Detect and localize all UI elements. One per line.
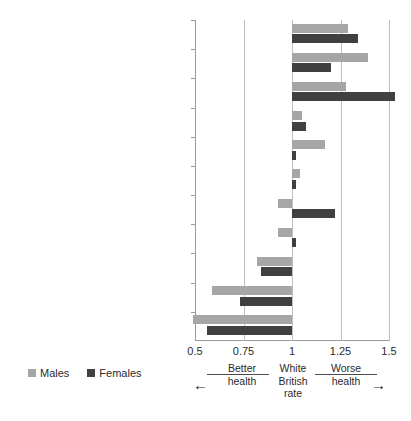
bar-females-pakistani <box>292 92 395 101</box>
arrow-left-icon: ← <box>193 379 208 390</box>
bar-group <box>195 312 389 341</box>
bar-females-mixed-white-black-african <box>292 180 296 189</box>
bar-females-bangladeshi <box>292 34 358 43</box>
bar-males-black-caribbean <box>292 140 325 149</box>
bar-males-indian <box>278 199 292 208</box>
annotation-worse-health: Worse health <box>317 362 375 387</box>
bar-males-white-irish <box>292 53 368 62</box>
annotation-reference-line3: rate <box>271 387 315 400</box>
bar-females-mixed-white-black-caribbean <box>292 122 306 131</box>
bar-group <box>195 195 389 224</box>
annotation-reference-line2: British <box>271 375 315 388</box>
bar-females-white-irish <box>292 63 331 72</box>
legend: Males Females <box>28 367 142 379</box>
bar-females-indian <box>292 209 335 218</box>
legend-swatch-females-icon <box>87 369 95 377</box>
bar-females-black-african <box>240 297 292 306</box>
x-tick-label: 1.25 <box>330 345 351 357</box>
bar-group <box>195 224 389 253</box>
x-tick-label: 1 <box>289 345 295 357</box>
annotation-better-line2: health <box>213 375 271 388</box>
bar-group <box>195 49 389 78</box>
chart-container: BangladeshiWhite IrishPakistaniMixed Whi… <box>0 0 411 421</box>
gridline-1-5 <box>389 20 390 341</box>
bar-males-mixed-white-asian <box>278 228 292 237</box>
annotation-worse-line1: Worse <box>317 362 375 375</box>
plot-area <box>195 20 389 341</box>
legend-label-females: Females <box>99 367 141 379</box>
annotation-better-line1: Better <box>213 362 271 375</box>
bar-group <box>195 78 389 107</box>
bar-females-mixed-white-asian <box>292 238 296 247</box>
annotation-white-british-rate: White British rate <box>271 362 315 400</box>
bar-males-bangladeshi <box>292 24 348 33</box>
bar-males-mixed-white-black-african <box>292 169 300 178</box>
bar-males-pakistani <box>292 82 346 91</box>
x-tick-label: 0.5 <box>187 345 202 357</box>
bar-females-other-white <box>261 267 292 276</box>
legend-item-females: Females <box>87 367 141 379</box>
bar-group <box>195 137 389 166</box>
bar-group <box>195 166 389 195</box>
axis-annotations: ← → Better health White British rate Wor… <box>195 362 395 420</box>
bar-group <box>195 20 389 49</box>
annotation-worse-line2: health <box>317 375 375 388</box>
bar-group <box>195 253 389 282</box>
bar-group <box>195 283 389 312</box>
bar-males-black-african <box>212 286 292 295</box>
bar-group <box>195 108 389 137</box>
bar-males-mixed-white-black-caribbean <box>292 111 302 120</box>
x-axis-tick-labels: 0.50.7511.251.5 <box>195 345 389 361</box>
annotation-reference-line1: White <box>271 362 315 375</box>
bar-males-chinese <box>193 315 292 324</box>
bar-females-black-caribbean <box>292 151 296 160</box>
x-tick-label: 0.75 <box>233 345 254 357</box>
legend-label-males: Males <box>40 367 69 379</box>
bar-males-other-white <box>257 257 292 266</box>
bar-females-chinese <box>207 326 292 335</box>
x-tick-label: 1.5 <box>381 345 396 357</box>
legend-swatch-males-icon <box>28 369 36 377</box>
annotation-better-health: Better health <box>213 362 271 387</box>
legend-item-males: Males <box>28 367 69 379</box>
